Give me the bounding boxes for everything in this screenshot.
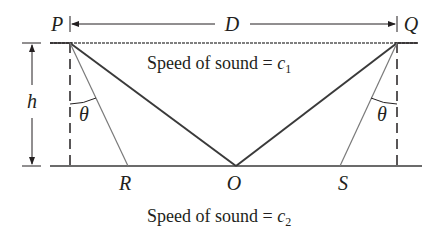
upper-medium-subscript: 1: [285, 62, 291, 76]
point-r-label: R: [118, 172, 131, 194]
upper-medium-symbol: c: [277, 53, 285, 73]
ray-q-to-s: [340, 43, 397, 166]
theta-left-label: θ: [79, 103, 89, 125]
point-o-label: O: [227, 172, 241, 194]
point-q-label: Q: [404, 13, 419, 35]
h-dimension: h: [22, 43, 41, 166]
lower-medium-symbol: c: [277, 206, 285, 226]
upper-medium-prefix: Speed of sound =: [147, 53, 277, 73]
lower-medium-label: Speed of sound = c2: [147, 206, 291, 229]
upper-medium-label: Speed of sound = c1: [147, 53, 291, 76]
d-label: D: [224, 13, 240, 35]
lower-medium-subscript: 2: [285, 215, 291, 229]
point-s-label: S: [338, 172, 348, 194]
theta-right-label: θ: [377, 103, 387, 125]
sound-reflection-diagram: D P Q h θ θ R O S Speed of sound = c1 Sp…: [0, 0, 442, 235]
h-label: h: [27, 90, 37, 112]
d-dimension: D: [70, 13, 397, 35]
lower-medium-prefix: Speed of sound =: [147, 206, 277, 226]
point-p-label: P: [50, 13, 63, 35]
